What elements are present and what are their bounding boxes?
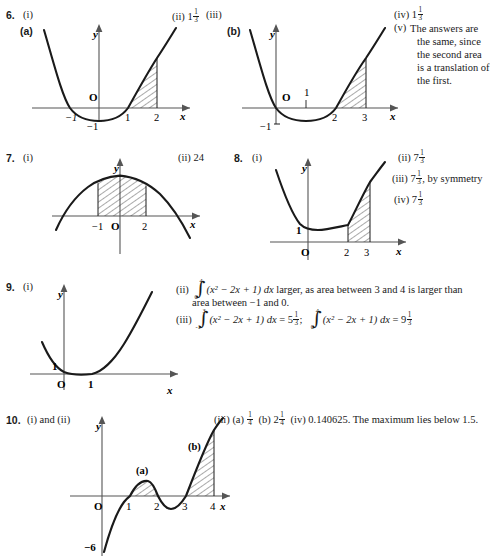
integrand-ii: (x² − 2x + 1) dx — [206, 284, 273, 295]
svg-text:3: 3 — [364, 247, 369, 258]
svg-text:y: y — [300, 162, 307, 174]
question-number-9: 9. — [6, 281, 15, 293]
graph-9: 1 O 1 y x — [28, 282, 198, 394]
integrand-iii-2: (x² − 2x + 1) dx — [323, 314, 390, 325]
svg-text:2: 2 — [332, 112, 337, 123]
svg-text:x: x — [389, 110, 396, 122]
svg-text:y: y — [268, 28, 275, 40]
svg-text:(b): (b) — [188, 441, 201, 453]
question-9-text-ii: (ii) ∫ 0 4 (x² − 2x + 1) dx larger, as a… — [176, 281, 463, 296]
svg-text:2: 2 — [154, 500, 160, 512]
svg-text:2: 2 — [344, 247, 349, 258]
question-6-note-line-4: is a translation of — [417, 61, 494, 74]
graph-8: 1 O 2 3 y x — [268, 156, 433, 266]
fraction-one-quarter: 14 — [279, 412, 285, 428]
svg-text:O: O — [301, 246, 310, 258]
svg-text:1: 1 — [52, 360, 58, 372]
integral-symbol: ∫ 0 4 — [310, 311, 322, 326]
question-number-7: 7. — [6, 152, 15, 164]
fraction-one-third: 13 — [407, 312, 413, 328]
svg-text:−1: −1 — [87, 121, 98, 132]
svg-text:x: x — [166, 384, 173, 396]
svg-text:−1: −1 — [260, 121, 271, 132]
answers-page: 6. (i) (ii) 113 (iii) (iv) 113 (v) The a… — [0, 0, 494, 558]
graph-6b: 2 3 O −1 1 y x — [240, 20, 415, 132]
question-number-10: 10. — [6, 414, 21, 426]
question-number-8: 8. — [234, 152, 243, 164]
graph-6a: −1 1 2 O −1 y x — [30, 20, 210, 132]
svg-text:1: 1 — [296, 224, 302, 236]
svg-text:O: O — [57, 378, 66, 390]
question-6-note-line-3: the second area — [417, 48, 494, 61]
svg-text:3: 3 — [362, 112, 367, 123]
question-6-note-line-2: the same, since — [417, 35, 494, 48]
svg-text:1: 1 — [88, 378, 94, 390]
question-8-part-i: (i) — [252, 152, 262, 163]
fraction-one-third: 13 — [293, 312, 299, 328]
svg-text:O: O — [89, 91, 98, 103]
svg-text:4: 4 — [210, 500, 216, 512]
svg-text:2: 2 — [154, 112, 159, 123]
svg-text:y: y — [91, 28, 98, 40]
question-9-text-iii: (iii) ∫ -1 3 (x² − 2x + 1) dx = 513; ∫ 0… — [176, 311, 413, 328]
svg-text:x: x — [219, 500, 226, 512]
svg-text:y: y — [112, 162, 119, 174]
svg-text:y: y — [94, 420, 101, 432]
svg-text:1: 1 — [304, 86, 310, 98]
graph-6b-tag: (b) — [227, 25, 240, 37]
svg-text:−1: −1 — [92, 221, 103, 232]
svg-text:x: x — [179, 110, 186, 122]
question-number-6: 6. — [6, 9, 15, 21]
svg-text:x: x — [395, 245, 402, 257]
graph-10: 1 2 3 4 O −6 y x (a) (b) — [60, 414, 250, 558]
svg-text:3: 3 — [182, 500, 188, 512]
question-10-answers-line: (iii) (a) 14 (b) 214 (iv) 0.140625. The … — [214, 412, 478, 428]
svg-text:1: 1 — [125, 112, 130, 123]
svg-text:x: x — [189, 218, 196, 230]
question-6-part-i: (i) — [23, 9, 33, 20]
graph-7: −1 O 2 y x — [50, 156, 230, 256]
svg-text:O: O — [94, 500, 103, 512]
svg-text:1: 1 — [126, 500, 132, 512]
svg-text:(a): (a) — [136, 465, 149, 477]
integrand-iii-1: (x² − 2x + 1) dx — [209, 314, 276, 325]
svg-text:O: O — [111, 220, 120, 232]
svg-text:−1: −1 — [65, 112, 77, 123]
svg-text:y: y — [56, 288, 63, 300]
question-7-part-i: (i) — [23, 152, 33, 163]
cropped-bottom-line — [0, 552, 494, 558]
svg-text:2: 2 — [142, 221, 147, 232]
question-6-answer-iii: (iii) — [206, 9, 222, 20]
question-6-note-line-5: the first. — [417, 74, 494, 87]
question-6-note-line-1: The answers are — [410, 22, 494, 35]
question-9-ii-after: larger, as area between 3 and 4 is large… — [274, 284, 463, 295]
integral-symbol: ∫ -1 3 — [196, 311, 208, 326]
svg-text:O: O — [282, 91, 291, 103]
fraction-one-third: 13 — [418, 7, 424, 23]
